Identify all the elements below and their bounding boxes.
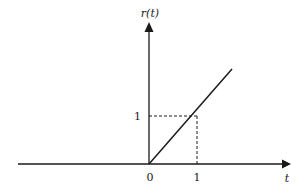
r-axis-arrow-icon [145,22,154,32]
y-tick-label-1: 1 [134,110,141,123]
ramp-function-diagram: r(t) t 0 1 1 [0,0,305,189]
origin-tick-label: 0 [147,171,154,184]
x-tick-label-1: 1 [194,171,201,184]
y-axis-label: r(t) [141,7,159,20]
x-axis-label: t [285,172,290,185]
t-axis-arrow-icon [282,160,291,169]
